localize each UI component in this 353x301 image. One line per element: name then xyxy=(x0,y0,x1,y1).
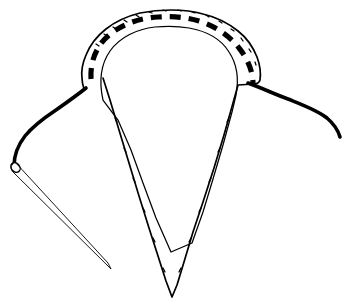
illustration-canvas: Hand-sewn point with running stitch Line… xyxy=(0,0,353,301)
sewing-diagram-svg xyxy=(0,0,353,301)
